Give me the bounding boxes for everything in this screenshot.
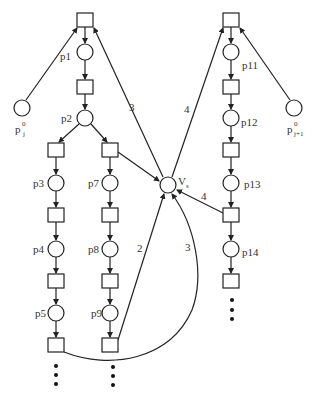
label-p12: p12 <box>241 116 258 128</box>
label-p7: p7 <box>88 177 100 189</box>
dot <box>111 383 115 387</box>
place-p7 <box>102 175 118 191</box>
label-p8: p8 <box>88 243 100 255</box>
label-p3: p3 <box>33 177 45 189</box>
right-chain-arcs <box>231 27 290 273</box>
place-p11 <box>223 44 239 60</box>
diagram-svg: p1 p2 p3 p4 p5 p7 p8 p9 p11 p12 p13 p14 … <box>0 0 320 400</box>
label-p0j: p <box>15 123 21 135</box>
place-p8 <box>102 241 118 257</box>
label-p2: p2 <box>61 112 72 124</box>
place-p2 <box>77 110 93 126</box>
label-vs: V <box>178 175 186 187</box>
label-p11: p11 <box>242 59 258 71</box>
place-p1 <box>77 44 93 60</box>
label-p0j-sup: 0 <box>22 120 26 128</box>
label-p0j1-sup: 0 <box>294 120 298 128</box>
label-p14: p14 <box>242 246 259 258</box>
transition-t8 <box>102 208 118 222</box>
label-p0j1: p <box>287 123 293 135</box>
transition-left-top <box>77 13 93 27</box>
weight-p5-trans-vs: 3 <box>185 241 191 253</box>
transition-t6 <box>48 338 64 352</box>
label-p9: p9 <box>91 307 103 319</box>
dot <box>230 308 234 312</box>
label-p5: p5 <box>35 307 47 319</box>
place-p12 <box>223 110 239 126</box>
transition-t5 <box>48 274 64 288</box>
weight-p9-trans-vs: 2 <box>137 242 143 254</box>
label-p4: p4 <box>33 243 45 255</box>
dot <box>54 373 58 377</box>
transition-left-2 <box>77 80 93 94</box>
dot <box>54 364 58 368</box>
transition-t3 <box>48 143 64 157</box>
label-p13: p13 <box>244 178 261 190</box>
transition-right-3 <box>223 143 239 157</box>
weight-vs-left-top: 3 <box>129 101 135 113</box>
dot <box>111 365 115 369</box>
place-p3 <box>48 175 64 191</box>
place-p0j <box>14 100 30 116</box>
place-p0j1 <box>286 100 302 116</box>
dot <box>230 317 234 321</box>
dot <box>54 382 58 386</box>
transition-t4 <box>48 208 64 222</box>
label-vs-sub: s <box>186 182 189 190</box>
place-p9 <box>102 305 118 321</box>
place-p13 <box>223 175 239 191</box>
transition-t10 <box>102 338 118 352</box>
weight-vs-right-top: 4 <box>184 103 190 115</box>
label-p1: p1 <box>60 50 71 62</box>
label-p0j1-sub: j+1 <box>293 130 304 138</box>
place-p4 <box>48 241 64 257</box>
weight-right-trans-vs: 4 <box>201 190 207 202</box>
transition-t7 <box>102 143 118 157</box>
label-p0j-sub: j <box>22 130 25 138</box>
place-p14 <box>223 241 239 257</box>
place-vs <box>160 177 176 193</box>
place-p5 <box>48 305 64 321</box>
petri-net-diagram: p1 p2 p3 p4 p5 p7 p8 p9 p11 p12 p13 p14 … <box>0 0 320 400</box>
transition-right-2 <box>223 80 239 94</box>
dot <box>111 374 115 378</box>
continuation-dots <box>54 298 234 387</box>
transition-right-top <box>223 13 239 27</box>
vs-arcs <box>64 28 223 360</box>
transition-right-5 <box>223 274 239 288</box>
transition-t9 <box>102 274 118 288</box>
dot <box>230 298 234 302</box>
transition-right-4 <box>223 208 239 222</box>
